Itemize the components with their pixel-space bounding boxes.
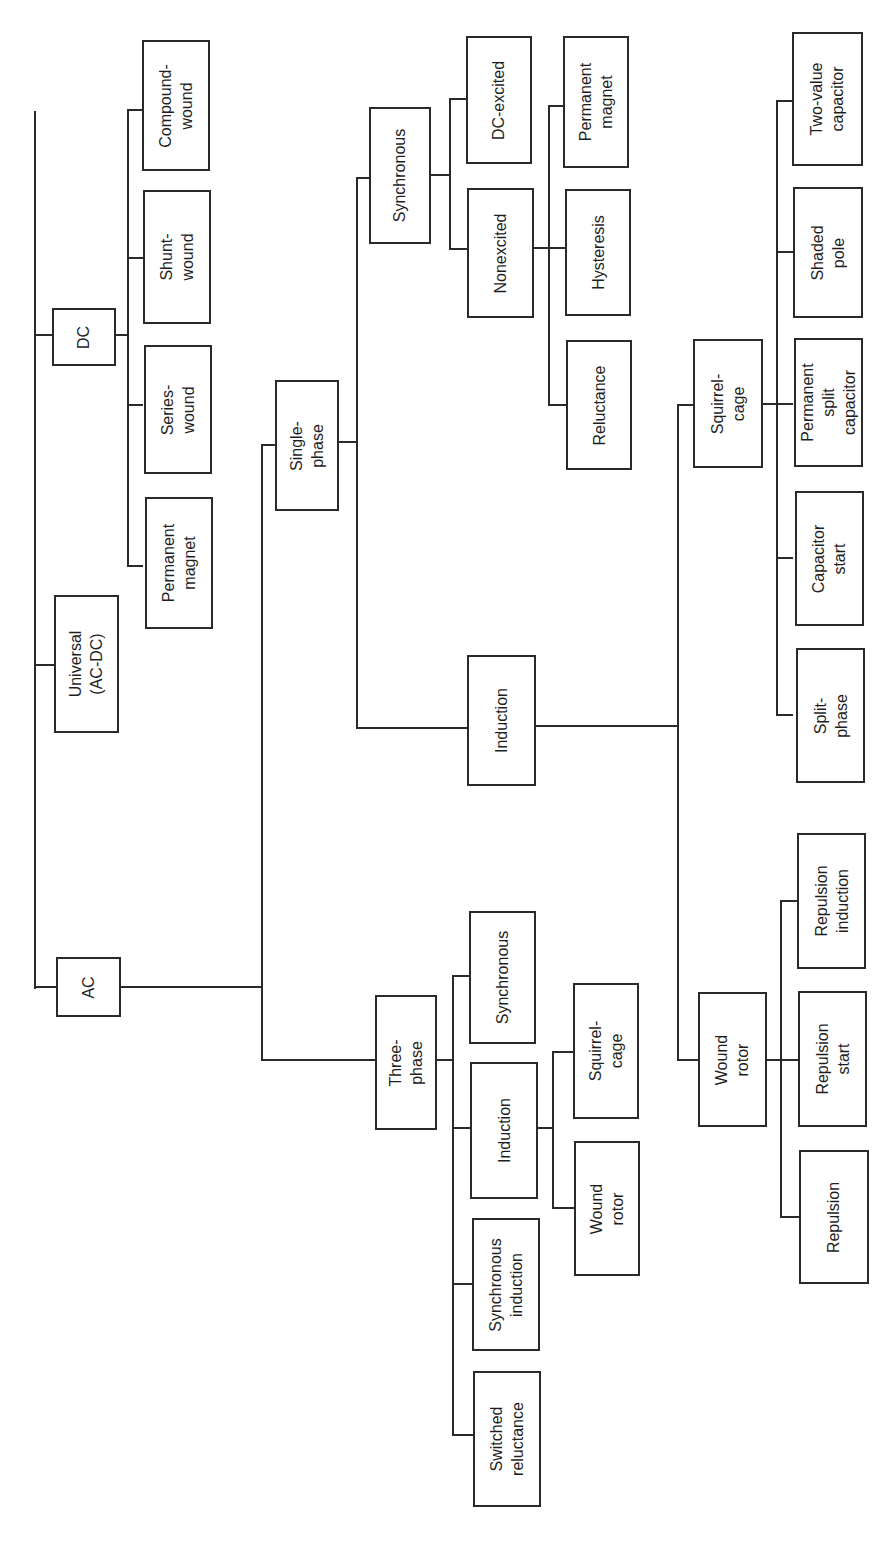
node-dc-permanent-magnet: Permanent magnet bbox=[145, 497, 213, 629]
connector-spsc-twovalue bbox=[776, 100, 793, 102]
node-label: DC bbox=[73, 325, 94, 348]
node-three-phase: Three- phase bbox=[375, 995, 437, 1130]
connector-sync-dcexcited bbox=[449, 98, 467, 100]
connector-nonex-pm bbox=[548, 105, 564, 107]
connector-sp-sync bbox=[356, 177, 370, 179]
node-label: Capacitor start bbox=[809, 524, 851, 592]
node-sp-repulsion: Repulsion bbox=[799, 1150, 869, 1284]
connector-dc-compound bbox=[127, 109, 143, 111]
node-sp-wound-rotor: Wound rotor bbox=[698, 992, 767, 1127]
node-label: Series- wound bbox=[157, 384, 199, 435]
node-label: Repulsion start bbox=[812, 1023, 854, 1094]
node-sp-shaded-pole: Shaded pole bbox=[793, 187, 863, 318]
connector-ac-three bbox=[261, 1059, 376, 1061]
node-label: Synchronous induction bbox=[485, 1238, 527, 1331]
node-label: Universal (AC-DC) bbox=[66, 631, 108, 698]
node-tp-squirrel-cage: Squirrel- cage bbox=[573, 983, 639, 1119]
node-sp-permanent-magnet: Permanent magnet bbox=[563, 36, 629, 168]
connector-spind-wr bbox=[677, 1059, 699, 1061]
node-label: Permanent magnet bbox=[575, 63, 617, 141]
connector-spsc-split bbox=[776, 714, 793, 716]
node-sp-dc-excited: DC-excited bbox=[466, 36, 532, 164]
node-label: Reluctance bbox=[589, 365, 610, 445]
node-dc-series-wound: Series- wound bbox=[144, 345, 212, 474]
node-tp-synchronous-induction: Synchronous induction bbox=[472, 1218, 540, 1351]
connector-spind-sc bbox=[677, 404, 694, 406]
node-label: Shunt- wound bbox=[156, 233, 198, 280]
connector-root-universal bbox=[34, 664, 55, 666]
connector-tp-trunk bbox=[452, 975, 454, 1436]
connector-dc-trunk bbox=[127, 109, 129, 567]
node-label: Synchronous bbox=[492, 931, 513, 1024]
node-label: Repulsion induction bbox=[811, 865, 853, 936]
connector-dc-pm bbox=[127, 565, 143, 567]
connector-tp-induction bbox=[452, 1127, 471, 1129]
connector-sync-nonexcited bbox=[449, 248, 468, 250]
node-sp-split-phase: Split- phase bbox=[796, 648, 865, 783]
connector-root-trunk bbox=[34, 111, 36, 989]
node-sp-synchronous: Synchronous bbox=[369, 107, 431, 244]
node-label: Two-value capacitor bbox=[807, 63, 849, 136]
node-dc-shunt-wound: Shunt- wound bbox=[143, 190, 211, 324]
node-tp-wound-rotor: Wound rotor bbox=[574, 1141, 640, 1276]
node-label: AC bbox=[78, 976, 99, 998]
node-sp-repulsion-induction: Repulsion induction bbox=[797, 833, 866, 969]
node-label: Hysteresis bbox=[588, 215, 609, 290]
node-sp-hysteresis: Hysteresis bbox=[565, 189, 631, 316]
node-label: Shaded pole bbox=[807, 225, 849, 280]
connector-sp-induction bbox=[356, 727, 468, 729]
node-sp-reluctance: Reluctance bbox=[566, 340, 632, 470]
node-sp-repulsion-start: Repulsion start bbox=[798, 991, 867, 1127]
connector-tpind-sc bbox=[552, 1051, 574, 1053]
connector-sync-out bbox=[429, 174, 451, 176]
connector-spwr-repind bbox=[780, 900, 798, 902]
node-label: Three- phase bbox=[385, 1039, 427, 1086]
node-label: Induction bbox=[494, 1098, 515, 1163]
node-sp-induction: Induction bbox=[467, 655, 536, 786]
node-tp-synchronous: Synchronous bbox=[469, 911, 536, 1044]
connector-root-ac bbox=[34, 986, 57, 988]
node-universal: Universal (AC-DC) bbox=[54, 595, 119, 733]
connector-nonex-trunk bbox=[548, 105, 550, 406]
node-label: Synchronous bbox=[390, 129, 411, 222]
connector-tpind-wr bbox=[552, 1207, 575, 1209]
node-tp-switched-reluctance: Switched reluctance bbox=[473, 1371, 541, 1507]
connector-sp-trunk bbox=[356, 177, 358, 729]
connector-spind-trunk bbox=[677, 404, 679, 1061]
node-label: Nonexcited bbox=[490, 213, 511, 293]
connector-tpind-trunk bbox=[552, 1051, 554, 1209]
node-label: Permanent magnet bbox=[158, 524, 200, 602]
node-label: Single- phase bbox=[286, 421, 328, 471]
node-label: Compound- wound bbox=[155, 64, 197, 148]
connector-ac-trunk bbox=[261, 444, 263, 1061]
node-sp-squirrel-cage: Squirrel- cage bbox=[693, 339, 763, 468]
node-label: Wound rotor bbox=[586, 1183, 628, 1233]
node-tp-induction: Induction bbox=[470, 1062, 538, 1199]
connector-spsc-trunk bbox=[776, 100, 778, 716]
node-sp-two-value-capacitor: Two-value capacitor bbox=[792, 32, 863, 166]
node-label: Wound rotor bbox=[712, 1034, 754, 1084]
node-label: Squirrel- cage bbox=[585, 1021, 627, 1081]
node-sp-permanent-split-capacitor: Permanent split capacitor bbox=[794, 338, 863, 467]
connector-dc-shunt bbox=[127, 257, 143, 259]
node-label: Permanent split capacitor bbox=[797, 363, 860, 441]
node-dc: DC bbox=[52, 308, 116, 366]
connector-tp-syncind bbox=[452, 1283, 473, 1285]
connector-root-dc bbox=[34, 334, 53, 336]
node-label: Switched reluctance bbox=[486, 1402, 528, 1476]
node-label: Squirrel- cage bbox=[707, 373, 749, 433]
node-sp-capacitor-start: Capacitor start bbox=[795, 491, 864, 626]
connector-spsc-capstart bbox=[776, 557, 793, 559]
motor-classification-tree: DC Compound- wound Shunt- wound Series- … bbox=[0, 0, 886, 1541]
node-label: Induction bbox=[491, 688, 512, 753]
node-label: DC-excited bbox=[489, 60, 510, 139]
connector-sp-out bbox=[337, 441, 358, 443]
connector-tp-sync bbox=[452, 975, 470, 977]
node-dc-compound-wound: Compound- wound bbox=[142, 40, 210, 171]
connector-ac-out bbox=[120, 986, 263, 988]
node-sp-nonexcited: Nonexcited bbox=[467, 188, 534, 318]
connector-spsc-shaded bbox=[776, 251, 793, 253]
connector-nonex-reluctance bbox=[548, 404, 567, 406]
connector-spwr-out bbox=[765, 1059, 799, 1061]
node-single-phase: Single- phase bbox=[275, 380, 339, 511]
